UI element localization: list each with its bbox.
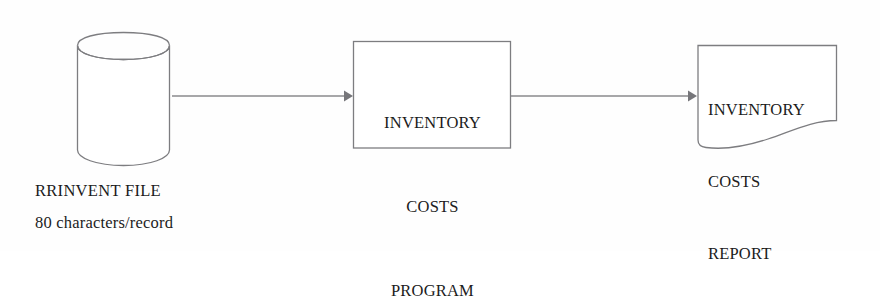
rrinvent-file-cylinder-shape[interactable] bbox=[78, 33, 170, 166]
connector-program-to-report-arrowhead bbox=[688, 91, 697, 102]
report-document-label-line-3: REPORT bbox=[708, 242, 836, 266]
program-box-label-line-1: INVENTORY bbox=[354, 109, 511, 137]
report-document-label-line-2: COSTS bbox=[708, 170, 836, 194]
rrinvent-file-label: RRINVENT FILE bbox=[35, 181, 161, 201]
connector-file-to-program bbox=[172, 91, 353, 102]
report-document-label: INVENTORY COSTS REPORT bbox=[708, 50, 836, 300]
connector-file-to-program-arrowhead bbox=[344, 91, 353, 102]
cylinder-top-arc bbox=[78, 33, 170, 46]
report-document-label-line-1: INVENTORY bbox=[708, 98, 836, 122]
program-box-label-line-3: PROGRAM bbox=[354, 277, 511, 300]
rrinvent-file-record-detail: 80 characters/record bbox=[35, 213, 173, 233]
connector-program-to-report bbox=[511, 91, 697, 102]
program-box-label: INVENTORY COSTS PROGRAM bbox=[354, 53, 511, 300]
program-box-label-line-2: COSTS bbox=[354, 193, 511, 221]
cylinder-body bbox=[78, 46, 170, 166]
